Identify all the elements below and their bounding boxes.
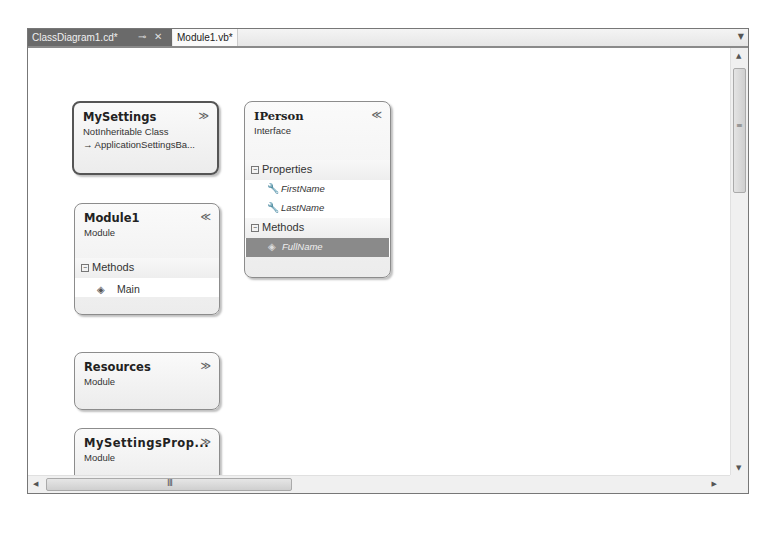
- shape-name: Module1: [84, 211, 211, 225]
- expand-chevron-icon[interactable]: ≫: [199, 110, 209, 121]
- scrollbar-corner: [730, 475, 748, 493]
- shape-name: Resources: [84, 360, 211, 374]
- shape-module1[interactable]: Module1 Module ≪ −Methods ◈Main: [74, 203, 220, 315]
- section-label: Methods: [262, 221, 304, 233]
- scroll-right-arrow-icon[interactable]: ▶: [712, 480, 717, 488]
- member-name: Main: [117, 283, 140, 295]
- section-label: Methods: [92, 261, 134, 273]
- collapse-chevron-icon[interactable]: ≪: [201, 211, 211, 222]
- shape-name: MySettingsProp...: [84, 436, 211, 450]
- methods-compartment: −Methods ◈Main: [75, 258, 219, 297]
- shape-name: MySettings: [83, 110, 209, 124]
- collapse-section-icon[interactable]: −: [81, 264, 89, 272]
- shape-mysettings[interactable]: MySettings NotInheritable Class → Applic…: [72, 101, 219, 175]
- document-tab-bar: ClassDiagram1.cd* ⊸ ✕ Module1.vb* ▼: [28, 29, 748, 48]
- shape-stereotype: NotInheritable Class: [83, 126, 209, 137]
- scroll-down-arrow-icon[interactable]: ▼: [736, 464, 741, 472]
- shape-stereotype: Module: [84, 227, 211, 238]
- member-firstname[interactable]: 🔧FirstName: [245, 180, 390, 199]
- shape-name: IPerson: [254, 109, 382, 123]
- section-label: Properties: [262, 163, 312, 175]
- expand-chevron-icon[interactable]: ≫: [201, 360, 211, 371]
- section-methods[interactable]: −Methods: [245, 218, 390, 238]
- class-diagram-window: ClassDiagram1.cd* ⊸ ✕ Module1.vb* ▼ MySe…: [27, 28, 749, 494]
- member-name: LastName: [281, 202, 324, 213]
- chevron-down-icon[interactable]: ▼: [738, 32, 744, 41]
- collapse-section-icon[interactable]: −: [251, 224, 259, 232]
- shape-stereotype: Module: [84, 376, 211, 387]
- tab-label: ClassDiagram1.cd*: [32, 32, 118, 43]
- shape-base-class: → ApplicationSettingsBa...: [83, 139, 209, 150]
- shape-resources[interactable]: Resources Module ≫: [74, 352, 220, 410]
- pin-icon[interactable]: ⊸: [138, 31, 146, 42]
- section-properties[interactable]: −Properties: [245, 160, 390, 180]
- vertical-scroll-thumb[interactable]: ≡: [733, 68, 746, 193]
- method-icon: ◈: [97, 284, 111, 295]
- properties-compartment: −Properties 🔧FirstName 🔧LastName: [245, 160, 390, 218]
- diagram-canvas[interactable]: MySettings NotInheritable Class → Applic…: [28, 48, 731, 476]
- scroll-left-arrow-icon[interactable]: ◀: [33, 480, 38, 488]
- shape-stereotype: Module: [84, 452, 211, 463]
- wrench-property-icon: 🔧: [267, 183, 281, 194]
- horizontal-scrollbar[interactable]: ◀ III ▶: [28, 475, 731, 493]
- shape-stereotype: Interface: [254, 125, 382, 136]
- close-icon[interactable]: ✕: [154, 31, 162, 42]
- expand-chevron-icon[interactable]: ≫: [201, 436, 211, 447]
- collapse-section-icon[interactable]: −: [251, 166, 259, 174]
- member-lastname[interactable]: 🔧LastName: [245, 199, 390, 218]
- section-methods[interactable]: −Methods: [75, 258, 219, 278]
- grip-icon: III: [167, 478, 172, 488]
- wrench-property-icon: 🔧: [267, 202, 281, 213]
- tab-classdiagram1[interactable]: ClassDiagram1.cd* ⊸ ✕: [28, 29, 172, 46]
- horizontal-scroll-thumb[interactable]: III: [46, 478, 292, 491]
- tab-label: Module1.vb*: [177, 32, 233, 43]
- collapse-chevron-icon[interactable]: ≪: [372, 109, 382, 120]
- member-name: FullName: [282, 241, 323, 252]
- vertical-scrollbar[interactable]: ▲ ≡ ▼: [730, 48, 748, 476]
- method-icon: ◈: [268, 241, 282, 252]
- methods-compartment: −Methods ◈FullName: [245, 218, 390, 257]
- member-main[interactable]: ◈Main: [75, 278, 219, 297]
- grip-icon: ≡: [736, 124, 743, 128]
- member-name: FirstName: [281, 183, 325, 194]
- scroll-up-arrow-icon[interactable]: ▲: [736, 52, 741, 60]
- shape-iperson[interactable]: IPerson Interface ≪ −Properties 🔧FirstNa…: [244, 101, 391, 278]
- member-fullname[interactable]: ◈FullName: [246, 238, 389, 257]
- tab-module1-vb[interactable]: Module1.vb*: [173, 29, 238, 46]
